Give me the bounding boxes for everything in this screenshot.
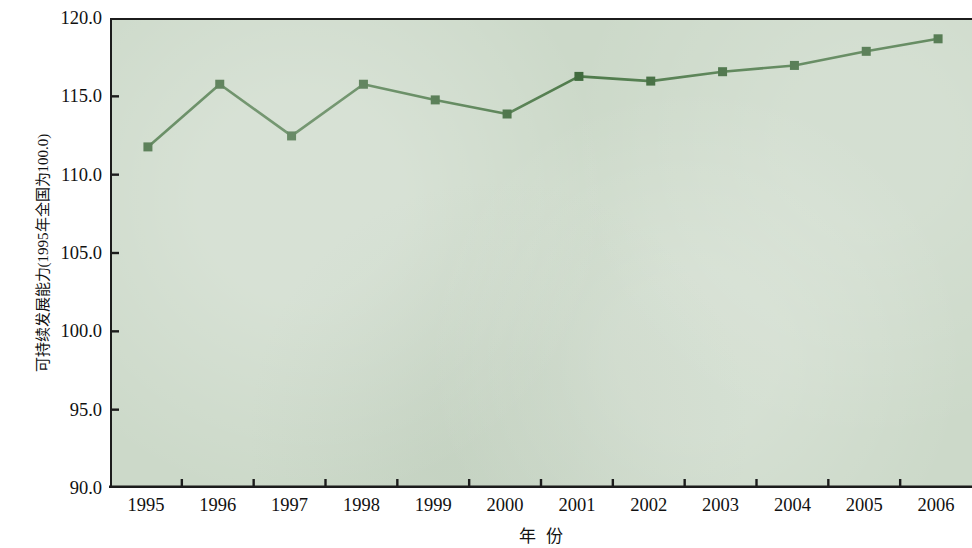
y-tick-label: 115.0	[30, 87, 102, 106]
x-tick-label: 2006	[891, 496, 972, 515]
y-tick-label: 110.0	[30, 166, 102, 185]
data-point-marker	[934, 34, 943, 43]
y-tick-label: 105.0	[30, 244, 102, 263]
data-point-marker	[574, 72, 583, 81]
x-axis-tick-labels: 1995199619971998199920002001200220032004…	[110, 496, 972, 524]
y-tick-label: 100.0	[30, 322, 102, 341]
data-point-marker	[718, 67, 727, 76]
x-axis-title-part2: 份	[546, 527, 563, 546]
series-line-chart	[112, 20, 972, 488]
chart-figure: 可持续发展能力(1995年全国为100.0) 120.0115.0110.010…	[0, 0, 972, 548]
data-point-marker	[790, 61, 799, 70]
data-point-marker	[215, 80, 224, 89]
y-axis-tick-labels: 120.0115.0110.0105.0100.095.090.0	[26, 0, 102, 548]
data-point-marker	[862, 47, 871, 56]
x-axis-title-part1: 年	[519, 527, 546, 546]
data-point-marker	[646, 77, 655, 86]
x-axis-title: 年份	[110, 522, 972, 547]
y-tick-label: 90.0	[30, 479, 102, 498]
data-point-marker	[287, 131, 296, 140]
data-point-marker	[503, 110, 512, 119]
data-point-marker	[143, 142, 152, 151]
series-line	[148, 39, 938, 147]
plot-area	[110, 18, 972, 488]
y-tick-label: 120.0	[30, 9, 102, 28]
y-tick-label: 95.0	[30, 401, 102, 420]
data-point-marker	[359, 80, 368, 89]
data-point-marker	[431, 95, 440, 104]
